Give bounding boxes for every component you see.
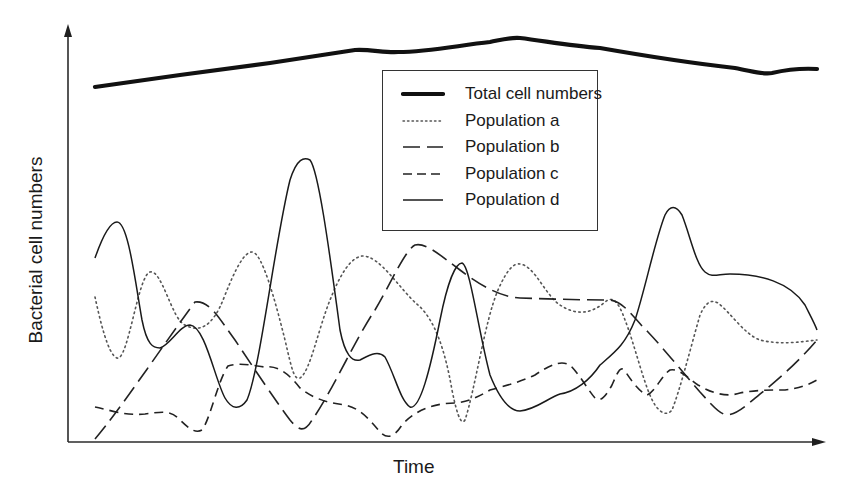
y-axis-arrow-icon [64,24,72,37]
long-dash-swatch-icon [401,139,445,155]
dotted-line-swatch-icon [401,113,445,129]
thick-line-swatch-icon [401,86,445,102]
short-dash-swatch-icon [401,166,445,182]
legend-item-total: Total cell numbers [383,83,597,107]
x-axis-arrow-icon [812,438,826,446]
legend-label-population-b: Population b [465,136,560,158]
y-axis-label: Bacterial cell numbers [25,157,47,344]
legend-item-population-c: Population c [383,163,597,187]
legend-label-population-d: Population d [465,189,560,211]
series-population-c [95,363,817,436]
legend-item-population-d: Population d [383,189,597,213]
x-axis-label: Time [393,456,435,478]
legend: Total cell numbers Population a Populati… [382,70,598,231]
series-population-a [95,252,817,422]
legend-label-total: Total cell numbers [465,83,602,105]
legend-item-population-a: Population a [383,110,597,134]
legend-label-population-a: Population a [465,110,560,132]
legend-item-population-b: Population b [383,136,597,160]
legend-label-population-c: Population c [465,163,559,185]
solid-line-swatch-icon [401,192,445,208]
